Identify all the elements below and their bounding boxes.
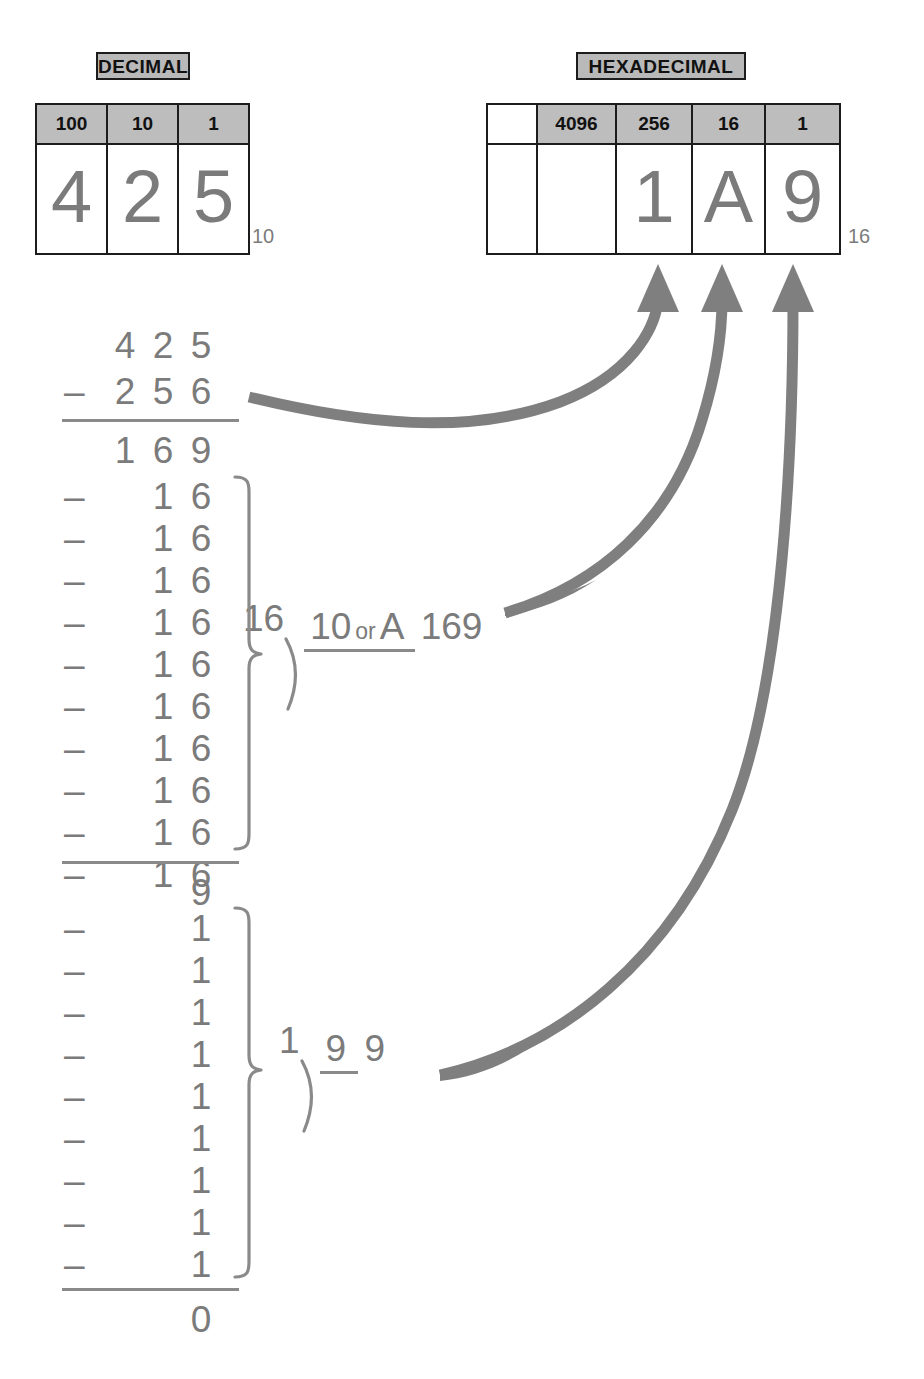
block-16-row: – 16 <box>64 646 220 683</box>
block-16-operator: – <box>64 520 106 557</box>
division-16-bracket-group: 10orA 169 <box>284 608 482 645</box>
block-1-operator: – <box>64 1078 106 1115</box>
decimal-caption-label: DECIMAL <box>98 57 188 76</box>
difference-row-169: 1 6 9 <box>64 432 220 469</box>
block-1-row: – 1 <box>64 1120 220 1157</box>
block-1-remainder-pad2 <box>144 1301 182 1338</box>
division-16-quotient-alt: A <box>380 606 403 647</box>
block-16-row: – 16 <box>64 814 220 851</box>
block-1-row: – 1 <box>64 1162 220 1199</box>
block-1-pad <box>144 1162 182 1199</box>
block-16-row: – 16 <box>64 772 220 809</box>
brace-block-1 <box>235 908 261 1277</box>
block-1-pad <box>144 1078 182 1115</box>
block-1-digit-0: 1 <box>182 910 220 947</box>
decimal-digit-row: 4 2 5 <box>37 145 248 255</box>
block-16-remainder-digit: 9 <box>182 874 220 911</box>
block-1-row: – 1 <box>64 1078 220 1115</box>
decimal-place-value-table: 100 10 1 4 2 5 <box>35 103 250 255</box>
block-16-digit-1: 6 <box>182 646 220 683</box>
block-1-operator: – <box>64 1120 106 1157</box>
block-1-operator: – <box>64 1246 106 1283</box>
division-16-or-word: or <box>351 618 379 644</box>
hex-base-subscript: 16 <box>848 226 870 246</box>
block-16-row: – 16 <box>64 520 220 557</box>
hex-header-1: 1 <box>766 105 839 143</box>
hex-header-row: 4096 256 16 1 <box>488 105 839 145</box>
hex-header-256: 256 <box>617 105 693 143</box>
decimal-header-1: 1 <box>179 105 248 143</box>
block-1-pad <box>144 994 182 1031</box>
block-1-operator: – <box>64 1036 106 1073</box>
block-16-digit-0: 1 <box>144 478 182 515</box>
division-16-quotient: 10 <box>310 606 351 647</box>
minuend-row-425: 4 2 5 <box>64 327 220 364</box>
block-16-row: – 16 <box>64 604 220 641</box>
block-1-remainder-row: 0 <box>64 1301 220 1338</box>
block-16-row: – 16 <box>64 478 220 515</box>
block-16-pad <box>106 520 144 557</box>
block-16-rule <box>62 861 239 864</box>
block-16-pad <box>106 730 144 767</box>
block-16-operator: – <box>64 646 106 683</box>
division-1-bracket-group: 9 9 <box>300 1030 385 1067</box>
division-bracket-icon-1 <box>298 1057 320 1135</box>
block-16-operator: – <box>64 604 106 641</box>
block-1-operator: – <box>64 952 106 989</box>
block-1-row: – 1 <box>64 952 220 989</box>
hex-header-blank <box>488 105 538 143</box>
subtrahend-digit-1: 5 <box>144 373 182 410</box>
block-16-digit-1: 6 <box>182 478 220 515</box>
block-16-digit-0: 1 <box>144 604 182 641</box>
division-1-quotient: 9 <box>326 1028 347 1069</box>
block-1-pad <box>106 1078 144 1115</box>
block-16-remainder-pad <box>106 874 144 911</box>
block-16-remainder-operator-blank <box>64 874 106 911</box>
block-16-pad <box>106 478 144 515</box>
block-16-pad <box>106 604 144 641</box>
block-1-row: – 1 <box>64 1246 220 1283</box>
block-1-pad <box>144 1036 182 1073</box>
arrow-to-1-column <box>440 264 814 1081</box>
block-16-digit-0: 1 <box>144 520 182 557</box>
block-16-row: – 16 <box>64 730 220 767</box>
block-16-pad <box>106 646 144 683</box>
division-16-169: 16 10orA 169 <box>243 600 482 645</box>
difference-digit-0: 1 <box>106 432 144 469</box>
block-16-row: – 16 <box>64 562 220 599</box>
minuend-digit-1: 2 <box>144 327 182 364</box>
block-1-pad <box>144 1246 182 1283</box>
subtrahend-digit-0: 2 <box>106 373 144 410</box>
hex-digit-256: 1 <box>617 145 693 255</box>
block-1-operator: – <box>64 910 106 947</box>
decimal-digit-ones: 5 <box>179 145 248 255</box>
block-16-digit-0: 1 <box>144 646 182 683</box>
block-1-digit-0: 1 <box>182 952 220 989</box>
block-1-operator: – <box>64 1162 106 1199</box>
subtrahend-digit-2: 6 <box>182 373 220 410</box>
block-16-operator: – <box>64 772 106 809</box>
decimal-digit-hundreds: 4 <box>37 145 108 255</box>
arrow-to-256-column <box>249 264 679 423</box>
block-16-remainder-row: 9 <box>64 874 220 911</box>
block-1-pad <box>144 952 182 989</box>
minuend-operator-blank <box>64 327 106 364</box>
division-1-quotient-line: 9 <box>320 1028 359 1074</box>
block-1-pad <box>106 1246 144 1283</box>
difference-operator-blank <box>64 432 106 469</box>
block-16-digit-1: 6 <box>182 604 220 641</box>
hex-digit-row: 1 A 9 <box>488 145 839 255</box>
minuend-digit-0: 4 <box>106 327 144 364</box>
block-16-digit-0: 1 <box>144 562 182 599</box>
hex-digit-16: A <box>693 145 766 255</box>
decimal-header-10: 10 <box>108 105 179 143</box>
division-16-dividend: 169 <box>415 603 483 647</box>
division-bracket-icon-16 <box>282 635 304 713</box>
hex-digit-blank <box>488 145 538 255</box>
block-1-pad <box>144 1120 182 1157</box>
difference-digit-2: 9 <box>182 432 220 469</box>
block-1-pad <box>106 1162 144 1199</box>
arrow-to-16-column <box>505 264 743 616</box>
block-1-pad <box>106 1204 144 1241</box>
block-16-digit-1: 6 <box>182 520 220 557</box>
